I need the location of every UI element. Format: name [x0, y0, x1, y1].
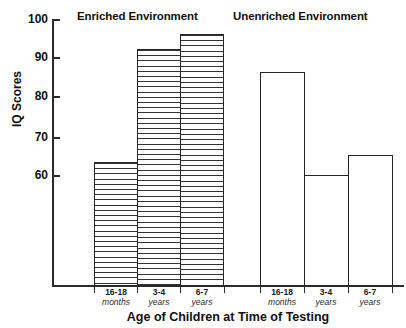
- y-tick-90: [54, 57, 60, 59]
- group-title-unenriched: Unenriched Environment: [233, 10, 368, 22]
- y-tick-label-90: 90: [20, 50, 48, 64]
- bar-unenriched-6-7-years: [348, 155, 393, 286]
- bar-unenriched-3-4-years: [304, 175, 349, 286]
- bar-enriched-6-7-years: [180, 34, 224, 286]
- y-tick-60: [54, 175, 60, 177]
- y-tick-label-100: 100: [20, 12, 48, 26]
- y-tick-100: [54, 19, 60, 21]
- iq-scores-bar-chart: Enriched Environment Unenriched Environm…: [0, 0, 406, 328]
- x-axis-title: Age of Children at Time of Testing: [52, 310, 404, 324]
- category-label-sub: years: [340, 298, 400, 308]
- category-label-enriched-2: 6-7 years: [172, 288, 232, 308]
- y-tick-label-80: 80: [20, 89, 48, 103]
- y-tick-label-60: 60: [20, 168, 48, 182]
- bar-enriched-16-18-months: [94, 162, 138, 286]
- y-tick-80: [54, 96, 60, 98]
- category-label-unenriched-2: 6-7 years: [340, 288, 400, 308]
- group-title-enriched: Enriched Environment: [77, 10, 198, 22]
- bar-unenriched-16-18-months: [260, 72, 305, 286]
- category-label-sub: years: [172, 298, 232, 308]
- y-tick-label-70: 70: [20, 130, 48, 144]
- y-axis-line: [52, 19, 54, 286]
- y-tick-70: [54, 137, 60, 139]
- bar-enriched-3-4-years: [137, 49, 181, 286]
